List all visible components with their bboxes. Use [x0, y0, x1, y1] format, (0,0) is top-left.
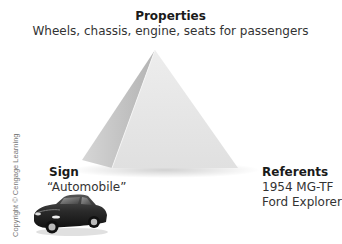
referent-item: Ford Explorer: [262, 195, 342, 210]
properties-title: Properties: [0, 9, 341, 24]
sign-label: Sign “Automobile”: [47, 165, 126, 195]
copyright-notice: Copyright © Cengage Learning: [11, 133, 20, 237]
referents-title: Referents: [262, 165, 342, 180]
referent-item: 1954 MG-TF: [262, 180, 342, 195]
car-icon: [30, 193, 110, 237]
referents-label: Referents 1954 MG-TF Ford Explorer: [262, 165, 342, 210]
sign-title: Sign: [47, 165, 126, 180]
properties-label: Properties Wheels, chassis, engine, seat…: [0, 9, 341, 39]
properties-text: Wheels, chassis, engine, seats for passe…: [0, 24, 341, 39]
